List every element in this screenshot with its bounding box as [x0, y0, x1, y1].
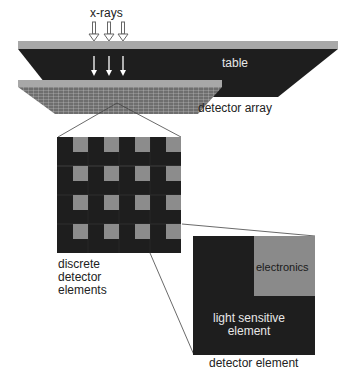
grid-cell-electronics — [104, 137, 119, 152]
grid-cell-electronics — [166, 224, 181, 239]
grid-cell-electronics — [104, 224, 119, 239]
grid-cell-electronics — [166, 195, 181, 210]
detector-array-grid — [18, 87, 222, 114]
grid-cell-electronics — [104, 166, 119, 181]
grid-cell-electronics — [104, 195, 119, 210]
xray-arrow-icon — [104, 22, 114, 41]
detector-array-label: detector array — [198, 102, 272, 115]
grid-cell-electronics — [73, 224, 88, 239]
grid-cell-electronics — [135, 137, 150, 152]
table-top-strip — [18, 41, 338, 49]
light-sensitive-line2: element — [212, 325, 286, 338]
grid-cell-electronics — [73, 137, 88, 152]
detector-array-top-strip — [18, 80, 222, 87]
grid-cell-electronics — [135, 166, 150, 181]
discrete-detector-elements-grid — [57, 137, 181, 253]
discrete-detector-elements-label: discrete detector elements — [58, 258, 107, 297]
discrete-label-line3: elements — [58, 284, 107, 297]
detector-array — [18, 80, 222, 114]
xray-arrow-icon — [118, 22, 128, 41]
xrays-label: x-rays — [90, 7, 123, 20]
grid-cell-electronics — [135, 224, 150, 239]
grid-cell-electronics — [73, 166, 88, 181]
electronics-label: electronics — [256, 261, 309, 274]
table-label: table — [222, 57, 248, 70]
grid-cell-electronics — [166, 137, 181, 152]
grid-cell-electronics — [73, 195, 88, 210]
xray-detector-diagram — [0, 0, 351, 380]
grid-cell-electronics — [135, 195, 150, 210]
light-sensitive-element-label: light sensitive element — [212, 312, 286, 338]
grid-cell-electronics — [166, 166, 181, 181]
xray-arrow-icon — [89, 22, 99, 41]
detector-element-label: detector element — [209, 357, 298, 370]
xray-arrows-incoming — [89, 22, 128, 41]
